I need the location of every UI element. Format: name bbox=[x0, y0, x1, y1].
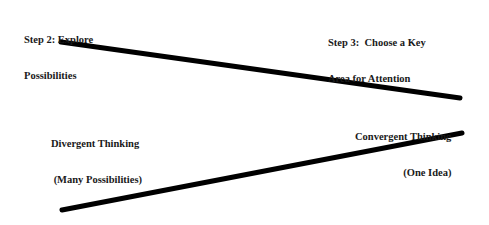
step3-label: Step 3: Choose a Key Area for Attention bbox=[328, 13, 426, 109]
step2-label-line2: Possibilities bbox=[24, 70, 93, 82]
convergent-thinking-label: Convergent Thinking (One Idea) bbox=[355, 107, 451, 203]
step3-label-line1: Step 3: Choose a Key bbox=[328, 37, 426, 49]
step2-label-line1: Step 2: Explore bbox=[24, 34, 93, 46]
step3-label-line2: Area for Attention bbox=[328, 73, 426, 85]
convergent-label-line1: Convergent Thinking bbox=[355, 131, 451, 143]
divergent-label-line2: (Many Possibilities) bbox=[51, 174, 142, 186]
divergent-convergent-diagram: Step 2: Explore Possibilities Step 3: Ch… bbox=[0, 0, 489, 225]
convergent-label-line2: (One Idea) bbox=[355, 167, 451, 179]
step2-label: Step 2: Explore Possibilities bbox=[24, 10, 93, 106]
divergent-thinking-label: Divergent Thinking (Many Possibilities) bbox=[51, 114, 142, 210]
divergent-label-line1: Divergent Thinking bbox=[51, 138, 142, 150]
